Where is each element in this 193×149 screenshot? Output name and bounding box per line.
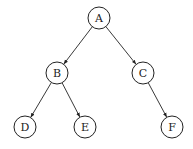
node-label: E bbox=[81, 121, 89, 134]
edge-b-d bbox=[31, 82, 52, 117]
node-e: E bbox=[74, 116, 96, 138]
tree-svg: ABCDEF bbox=[0, 0, 193, 149]
node-label: F bbox=[168, 121, 176, 134]
node-a: A bbox=[88, 7, 110, 29]
node-label: C bbox=[139, 67, 147, 80]
edge-a-c bbox=[106, 27, 136, 64]
edge-b-e bbox=[62, 83, 80, 117]
edge-c-f bbox=[148, 83, 166, 117]
node-b: B bbox=[46, 62, 68, 84]
node-label: D bbox=[21, 121, 30, 134]
nodes-group: ABCDEF bbox=[14, 7, 183, 138]
node-label: B bbox=[53, 67, 61, 80]
node-label: A bbox=[94, 12, 104, 25]
node-c: C bbox=[132, 62, 154, 84]
node-d: D bbox=[14, 116, 36, 138]
tree-diagram: ABCDEF bbox=[0, 0, 193, 149]
edge-a-b bbox=[64, 27, 92, 64]
node-f: F bbox=[161, 116, 183, 138]
